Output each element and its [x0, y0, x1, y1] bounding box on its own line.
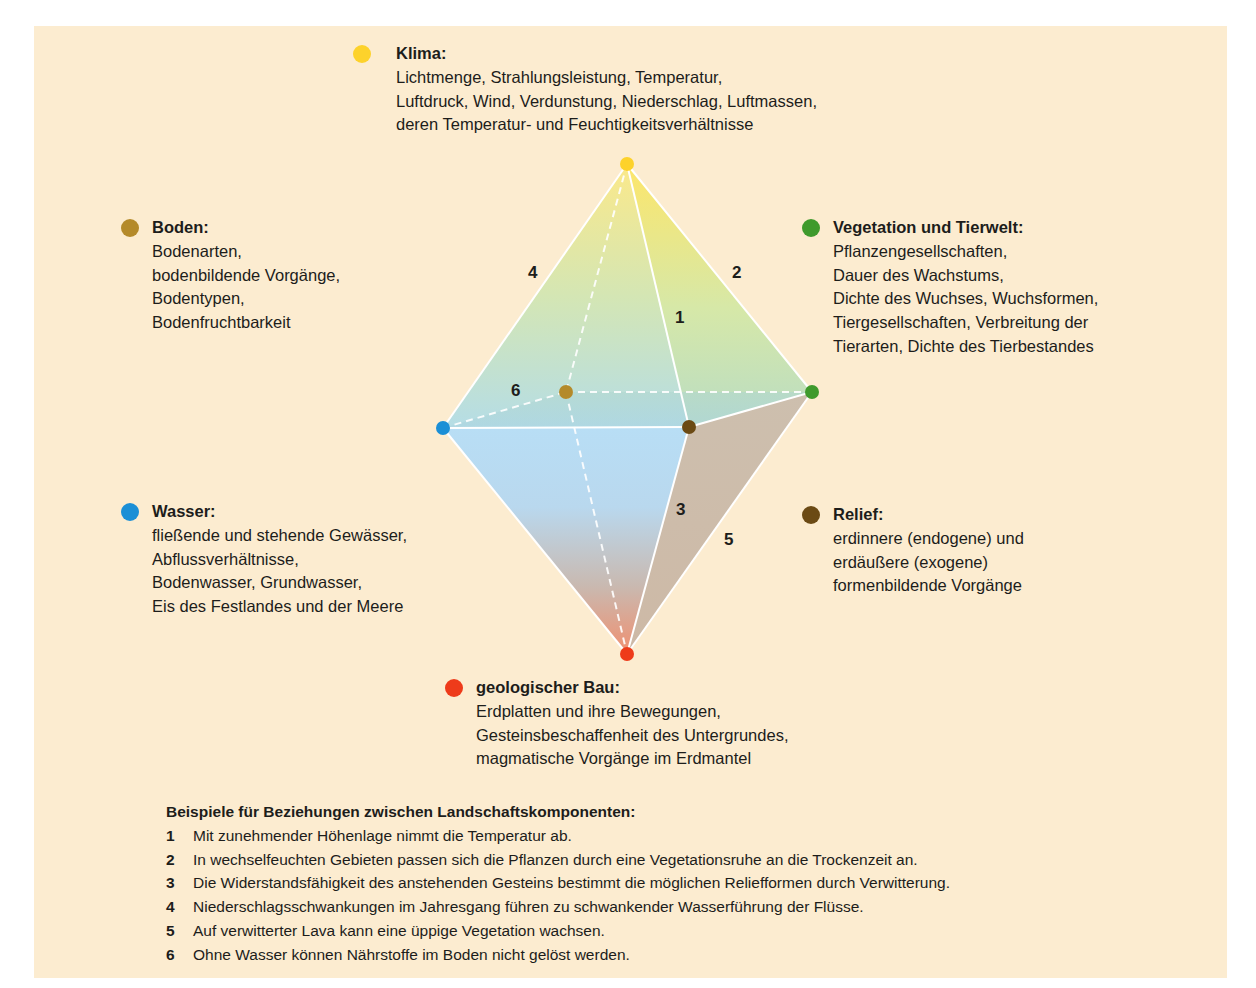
example-number: 6: [166, 943, 193, 967]
geologie-legend-dot-icon: [445, 679, 463, 697]
component-boden: Boden: Bodenarten, bodenbildende Vorgäng…: [152, 216, 340, 335]
geologie-line: Erdplatten und ihre Bewegungen,: [476, 700, 788, 724]
edge-label-1: 1: [675, 308, 684, 328]
klima-title: Klima:: [396, 42, 817, 66]
example-text: Niederschlagsschwankungen im Jahresgang …: [193, 898, 864, 915]
example-text: Die Widerstandsfähigkeit des anstehenden…: [193, 874, 950, 891]
example-number: 4: [166, 895, 193, 919]
vegetation-title: Vegetation und Tierwelt:: [833, 216, 1098, 240]
edge-label-5: 5: [724, 530, 733, 550]
edge-label-4: 4: [528, 263, 537, 283]
component-relief: Relief: erdinnere (endogene) und erdäuße…: [833, 503, 1024, 598]
edge-wasser-relief: [443, 427, 689, 428]
geologie-line: Gesteinsbeschaffenheit des Untergrundes,: [476, 724, 788, 748]
relief-line: erdinnere (endogene) und: [833, 527, 1024, 551]
klima-legend-dot-icon: [353, 45, 371, 63]
vegetation-legend-dot-icon: [802, 219, 820, 237]
example-number: 1: [166, 824, 193, 848]
example-number: 2: [166, 848, 193, 872]
example-item: 1Mit zunehmender Höhenlage nimmt die Tem…: [166, 824, 950, 848]
wasser-line: Eis des Festlandes und der Meere: [152, 595, 407, 619]
klima-line: deren Temperatur- und Feuchtigkeitsverhä…: [396, 113, 817, 137]
edge-label-3: 3: [676, 500, 685, 520]
geologie-line: magmatische Vorgänge im Erdmantel: [476, 747, 788, 771]
boden-line: Bodentypen,: [152, 287, 340, 311]
boden-line: bodenbildende Vorgänge,: [152, 264, 340, 288]
example-item: 6Ohne Wasser können Nährstoffe im Boden …: [166, 943, 950, 967]
boden-line: Bodenfruchtbarkeit: [152, 311, 340, 335]
relief-line: formenbildende Vorgänge: [833, 574, 1024, 598]
relief-line: erdäußere (exogene): [833, 551, 1024, 575]
component-vegetation: Vegetation und Tierwelt: Pflanzengesells…: [833, 216, 1098, 359]
example-number: 3: [166, 871, 193, 895]
example-text: Ohne Wasser können Nährstoffe im Boden n…: [193, 946, 630, 963]
component-wasser: Wasser: fließende und stehende Gewässer,…: [152, 500, 407, 619]
edge-label-2: 2: [732, 263, 741, 283]
example-number: 5: [166, 919, 193, 943]
wasser-title: Wasser:: [152, 500, 407, 524]
boden-line: Bodenarten,: [152, 240, 340, 264]
example-text: Auf verwitterter Lava kann eine üppige V…: [193, 922, 605, 939]
vegetation-line: Dichte des Wuchses, Wuchsformen,: [833, 287, 1098, 311]
boden-title: Boden:: [152, 216, 340, 240]
edge-label-6: 6: [511, 381, 520, 401]
component-klima: Klima: Lichtmenge, Strahlungsleistung, T…: [396, 42, 817, 137]
klima-line: Luftdruck, Wind, Verdunstung, Niederschl…: [396, 90, 817, 114]
boden-legend-dot-icon: [121, 219, 139, 237]
geologie-title: geologischer Bau:: [476, 676, 788, 700]
relief-legend-dot-icon: [802, 506, 820, 524]
relief-title: Relief:: [833, 503, 1024, 527]
wasser-line: fließende und stehende Gewässer,: [152, 524, 407, 548]
vertex-vegetation: [805, 385, 819, 399]
example-text: Mit zunehmender Höhenlage nimmt die Temp…: [193, 827, 572, 844]
component-geologie: geologischer Bau: Erdplatten und ihre Be…: [476, 676, 788, 771]
wasser-line: Abflussverhältnisse,: [152, 548, 407, 572]
vertex-relief: [682, 420, 696, 434]
example-item: 2In wechselfeuchten Gebieten passen sich…: [166, 848, 950, 872]
examples-list: Beispiele für Beziehungen zwischen Lands…: [166, 800, 950, 967]
vegetation-line: Tierarten, Dichte des Tierbestandes: [833, 335, 1098, 359]
vertex-boden: [559, 385, 573, 399]
vegetation-line: Dauer des Wachstums,: [833, 264, 1098, 288]
example-item: 4Niederschlagsschwankungen im Jahresgang…: [166, 895, 950, 919]
vertex-geologie: [620, 647, 634, 661]
vegetation-line: Tiergesellschaften, Verbreitung der: [833, 311, 1098, 335]
wasser-line: Bodenwasser, Grundwasser,: [152, 571, 407, 595]
vertex-klima: [620, 157, 634, 171]
example-text: In wechselfeuchten Gebieten passen sich …: [193, 851, 918, 868]
vegetation-line: Pflanzengesellschaften,: [833, 240, 1098, 264]
examples-heading: Beispiele für Beziehungen zwischen Lands…: [166, 800, 950, 824]
vertex-wasser: [436, 421, 450, 435]
example-item: 5Auf verwitterter Lava kann eine üppige …: [166, 919, 950, 943]
wasser-legend-dot-icon: [121, 503, 139, 521]
example-item: 3Die Widerstandsfähigkeit des anstehende…: [166, 871, 950, 895]
klima-line: Lichtmenge, Strahlungsleistung, Temperat…: [396, 66, 817, 90]
